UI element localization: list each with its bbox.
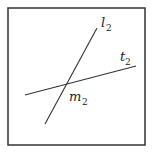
label-l2: l 2: [101, 15, 112, 33]
svg-text:l: l: [101, 15, 105, 30]
svg-text:2: 2: [125, 57, 131, 67]
label-t2: t 2: [120, 49, 131, 67]
svg-text:2: 2: [82, 97, 88, 107]
svg-text:m: m: [69, 89, 81, 104]
line-l2: [45, 28, 97, 124]
label-m2: m 2: [69, 89, 88, 107]
frame-border: [8, 8, 145, 145]
svg-text:2: 2: [106, 23, 112, 33]
diagram-canvas: l 2 t 2 m 2: [0, 0, 152, 152]
